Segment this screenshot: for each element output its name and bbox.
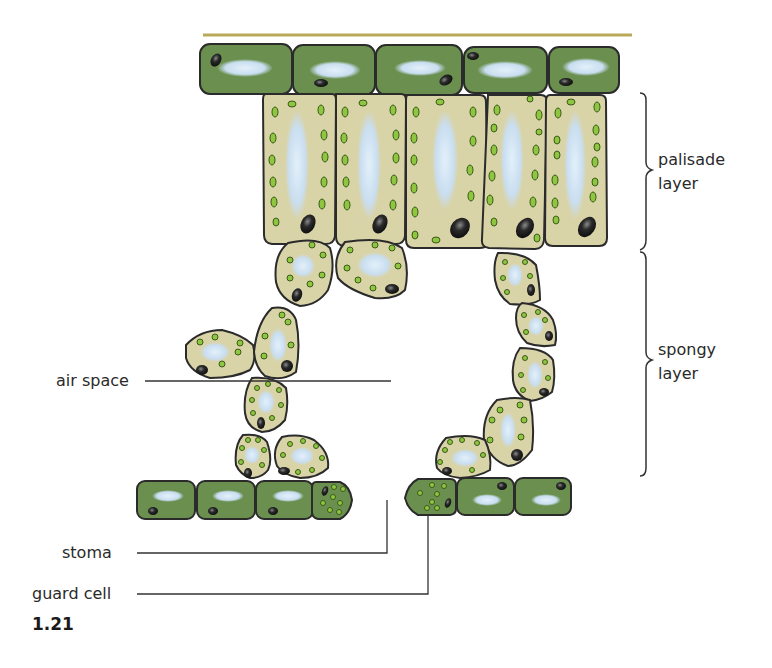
guard-cell-leader-line	[137, 515, 428, 594]
palisade-layer-label: palisade layer	[658, 148, 725, 196]
spongy-layer-label: spongy layer	[658, 338, 716, 386]
palisade-label-line2: layer	[658, 172, 725, 196]
figure-number: 1.21	[32, 614, 74, 634]
air-space-label: air space	[56, 369, 129, 393]
leaf-cross-section-diagram	[0, 0, 772, 668]
spongy-label-line1: spongy	[658, 338, 716, 362]
palisade-label-line1: palisade	[658, 148, 725, 172]
stoma-label: stoma	[62, 541, 112, 565]
palisade-bracket	[640, 93, 652, 250]
spongy-label-line2: layer	[658, 362, 716, 386]
spongy-bracket	[640, 252, 652, 476]
guard-cell-label: guard cell	[32, 582, 111, 606]
